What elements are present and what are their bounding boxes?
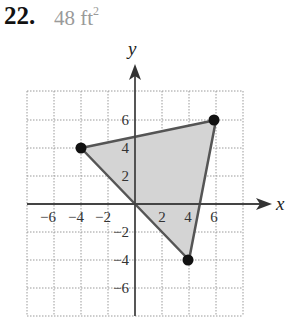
y-tick-label: −4 bbox=[113, 252, 129, 268]
y-tick-label: −2 bbox=[113, 224, 129, 240]
x-tick-label: −2 bbox=[95, 209, 111, 225]
vertex-point bbox=[76, 143, 87, 154]
y-tick-label: 6 bbox=[122, 112, 130, 128]
x-axis-label: x bbox=[275, 193, 285, 214]
y-tick-label: 2 bbox=[122, 168, 130, 184]
x-tick-label: 6 bbox=[210, 209, 218, 225]
x-tick-label: −4 bbox=[68, 209, 84, 225]
y-tick-label: −6 bbox=[113, 280, 129, 296]
x-tick-label: 4 bbox=[184, 209, 192, 225]
x-tick-label: −6 bbox=[40, 209, 56, 225]
coordinate-graph: x y −6 −4 −2 2 4 6 6 4 2 −2 −4 −6 bbox=[0, 0, 306, 335]
x-tick-label: 2 bbox=[158, 209, 166, 225]
vertex-point bbox=[183, 255, 194, 266]
triangle-region bbox=[81, 120, 216, 260]
y-axis-label: y bbox=[126, 38, 137, 59]
y-tick-label: 4 bbox=[122, 140, 130, 156]
vertex-point bbox=[209, 115, 220, 126]
